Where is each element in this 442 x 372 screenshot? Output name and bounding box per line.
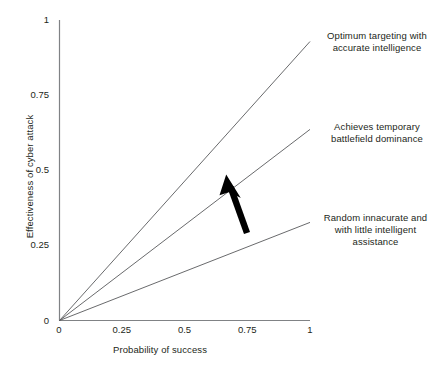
series-line-random: [60, 222, 311, 320]
y-tick-label-1: 1: [9, 14, 49, 25]
x-tick-label-0.5: 0.5: [165, 324, 205, 335]
chart-figure: 1 0.75 0.5 0.25 0 0 0.25 0.5 0.75 1 Prob…: [0, 0, 442, 372]
series-line-dominance: [60, 129, 311, 320]
annotation-random-inaccurate: Random innacurate and with little intell…: [310, 212, 441, 249]
x-axis-title: Probability of success: [0, 344, 320, 355]
annotation-battlefield-dominance: Achieves temporary battlefield dominance: [313, 121, 441, 145]
y-axis-title: Effectiveness of cyber attack: [24, 77, 35, 277]
series-line-optimum: [60, 42, 311, 321]
x-tick-label-0.25: 0.25: [102, 324, 142, 335]
improvement-direction-arrow: [220, 175, 248, 234]
x-tick-label-1: 1: [290, 324, 330, 335]
annotation-optimum-targeting: Optimum targeting with accurate intellig…: [313, 30, 441, 54]
plot-area: [0, 0, 442, 372]
x-tick-label-0: 0: [39, 324, 79, 335]
x-tick-label-0.75: 0.75: [227, 324, 267, 335]
